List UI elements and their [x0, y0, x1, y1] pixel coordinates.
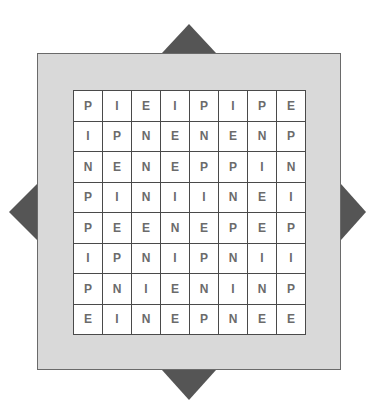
grid-row: IPNENENP — [74, 121, 306, 152]
grid-cell[interactable]: N — [132, 182, 161, 213]
grid-cell[interactable]: E — [74, 304, 103, 335]
grid-cell[interactable]: I — [219, 91, 248, 122]
grid-cell[interactable]: N — [190, 274, 219, 305]
grid-cell[interactable]: E — [248, 213, 277, 244]
grid-cell[interactable]: N — [132, 304, 161, 335]
grid-cell[interactable]: E — [161, 274, 190, 305]
grid-cell[interactable]: E — [248, 182, 277, 213]
right-pointer-icon — [341, 184, 366, 240]
grid-cell[interactable]: P — [103, 243, 132, 274]
grid-cell[interactable]: P — [74, 182, 103, 213]
grid-cell[interactable]: E — [161, 121, 190, 152]
grid-cell[interactable]: E — [248, 304, 277, 335]
grid-cell[interactable]: E — [277, 304, 306, 335]
grid-cell[interactable]: P — [219, 152, 248, 183]
grid-cell[interactable]: P — [103, 121, 132, 152]
grid-cell[interactable]: P — [190, 152, 219, 183]
grid-cell[interactable]: I — [248, 243, 277, 274]
grid-cell[interactable]: N — [219, 182, 248, 213]
grid-cell[interactable]: I — [219, 274, 248, 305]
grid-cell[interactable]: I — [74, 121, 103, 152]
grid-cell[interactable]: P — [277, 274, 306, 305]
grid-cell[interactable]: I — [161, 182, 190, 213]
grid-cell[interactable]: P — [277, 213, 306, 244]
grid-row: IPNIPNII — [74, 243, 306, 274]
grid-cell[interactable]: N — [161, 213, 190, 244]
grid-cell[interactable]: I — [248, 152, 277, 183]
grid-row: PINIINEI — [74, 182, 306, 213]
grid-row: PIEIPIPE — [74, 91, 306, 122]
left-pointer-icon — [9, 184, 37, 240]
grid-cell[interactable]: E — [277, 91, 306, 122]
grid-cell[interactable]: I — [103, 304, 132, 335]
grid-cell[interactable]: N — [103, 274, 132, 305]
grid-cell[interactable]: I — [190, 182, 219, 213]
grid-cell[interactable]: N — [190, 121, 219, 152]
grid-cell[interactable]: I — [74, 243, 103, 274]
grid-cell[interactable]: N — [132, 152, 161, 183]
grid-cell[interactable]: N — [248, 121, 277, 152]
grid-cell[interactable]: E — [161, 304, 190, 335]
top-pointer-icon — [162, 24, 216, 53]
grid-cell[interactable]: I — [132, 274, 161, 305]
grid-cell[interactable]: N — [219, 243, 248, 274]
grid-cell[interactable]: E — [219, 121, 248, 152]
grid-cell[interactable]: P — [74, 274, 103, 305]
grid-cell[interactable]: P — [219, 213, 248, 244]
grid-row: EINEPNEE — [74, 304, 306, 335]
grid-cell[interactable]: P — [190, 243, 219, 274]
grid-cell[interactable]: P — [277, 121, 306, 152]
grid-cell[interactable]: N — [219, 304, 248, 335]
grid-cell[interactable]: I — [277, 182, 306, 213]
grid-cell[interactable]: N — [132, 121, 161, 152]
letter-grid: PIEIPIPEIPNENENPNENEPPINPINIINEIPEENEPEP… — [73, 90, 306, 335]
grid-cell[interactable]: P — [74, 91, 103, 122]
grid-cell[interactable]: I — [103, 182, 132, 213]
grid-cell[interactable]: E — [132, 91, 161, 122]
grid-cell[interactable]: P — [248, 91, 277, 122]
grid-cell[interactable]: P — [74, 213, 103, 244]
grid-cell[interactable]: P — [190, 91, 219, 122]
grid-cell[interactable]: E — [190, 213, 219, 244]
grid-cell[interactable]: I — [277, 243, 306, 274]
grid-cell[interactable]: N — [132, 243, 161, 274]
grid-cell[interactable]: N — [277, 152, 306, 183]
grid-cell[interactable]: E — [103, 213, 132, 244]
grid-cell[interactable]: N — [74, 152, 103, 183]
grid-cell[interactable]: P — [190, 304, 219, 335]
grid-cell[interactable]: E — [103, 152, 132, 183]
grid-row: PNIENINP — [74, 274, 306, 305]
grid-cell[interactable]: N — [248, 274, 277, 305]
grid-cell[interactable]: E — [132, 213, 161, 244]
bottom-pointer-icon — [162, 370, 216, 400]
grid-cell[interactable]: I — [161, 243, 190, 274]
grid-cell[interactable]: I — [103, 91, 132, 122]
grid-cell[interactable]: I — [161, 91, 190, 122]
grid-cell[interactable]: E — [161, 152, 190, 183]
grid-row: NENEPPIN — [74, 152, 306, 183]
grid-row: PEENEPEP — [74, 213, 306, 244]
